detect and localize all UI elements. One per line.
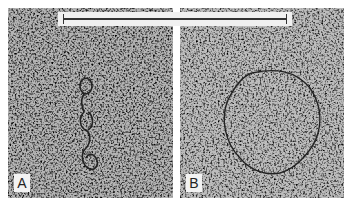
scale-bar (58, 12, 292, 26)
panel-label-b: B (186, 174, 202, 192)
micrograph-a-image (8, 8, 173, 198)
panel-label-a: A (14, 174, 30, 192)
micrograph-panel-b: B (180, 8, 344, 198)
scale-bar-right-tick (286, 14, 287, 24)
scale-bar-line (63, 18, 287, 20)
micrograph-b-image (180, 8, 344, 198)
micrograph-panel-a: A (8, 8, 173, 198)
